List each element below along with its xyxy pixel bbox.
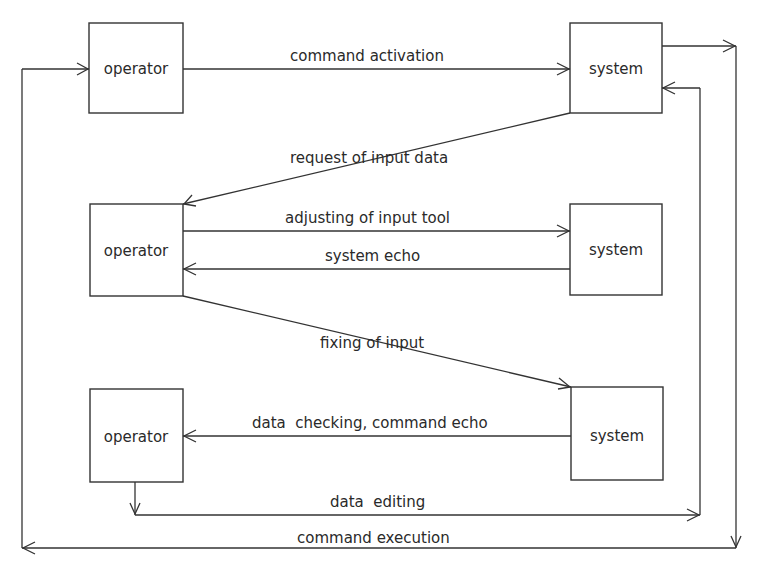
node-operator-3: operator [90,389,183,482]
node-system-2: system [570,204,662,295]
edge-label: system echo [325,247,420,265]
edge-label: adjusting of input tool [285,209,450,227]
node-operator-1: operator [89,23,183,113]
node-system-3: system [571,387,663,480]
node-system-1: system [570,23,662,113]
node-label: system [589,241,643,259]
node-label: system [590,427,644,445]
edge-label: command activation [290,47,444,65]
node-label: operator [104,242,169,260]
edge-system-echo: system echo [183,247,570,275]
edge-data-checking-command-echo: data checking, command echo [183,414,571,442]
interaction-flow-diagram: operator system operator system operator… [0,0,761,565]
arrowhead-icon [558,378,570,389]
edge-label: fixing of input [320,334,424,352]
node-label: operator [104,428,169,446]
node-label: operator [104,60,169,78]
edge-label: command execution [297,529,450,547]
edge-label: data checking, command echo [252,414,488,432]
edge-adjusting-of-input-tool: adjusting of input tool [183,209,570,237]
arrowhead-icon [184,195,196,206]
edge-command-activation: command activation [183,47,570,75]
node-operator-2: operator [90,204,183,296]
edge-label: request of input data [290,149,448,167]
edge-label: data editing [330,493,425,511]
node-label: system [589,60,643,78]
edge-fixing-of-input: fixing of input [183,296,571,389]
edge-request-of-input-data: request of input data [183,113,570,206]
